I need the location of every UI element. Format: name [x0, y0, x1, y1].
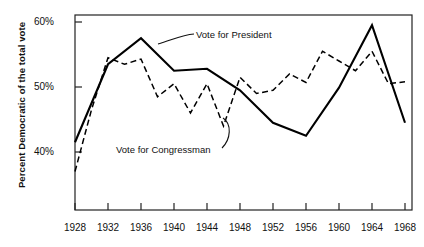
x-tick-label: 1968 [385, 222, 424, 233]
annotation-vote-for-president: Vote for President [196, 29, 272, 40]
chart-figure: Percent Democratic of the total vote 60%… [0, 0, 424, 247]
annotation-vote-for-congressman: Vote for Congressman [116, 144, 211, 155]
